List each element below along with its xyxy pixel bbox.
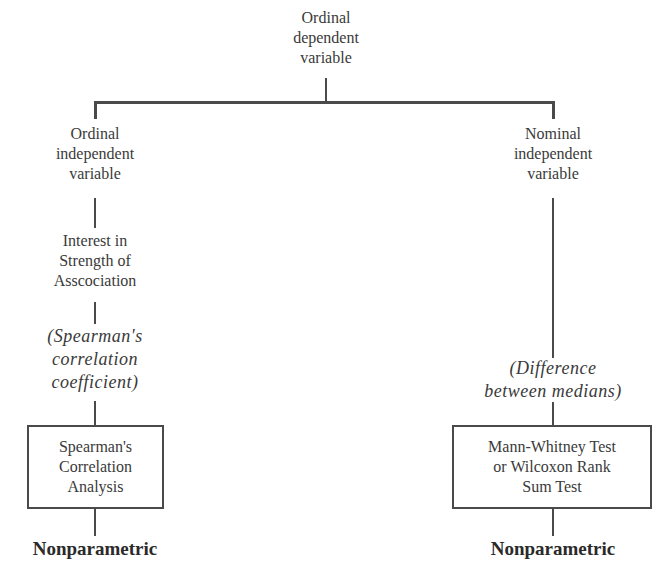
right-test-box-mann-whitney: Mann-Whitney Test or Wilcoxon Rank Sum T… xyxy=(452,425,652,509)
left-test-box-spearman: Spearman's Correlation Analysis xyxy=(27,425,164,509)
right-node-difference-medians: (Difference between medians) xyxy=(463,357,643,403)
root-node-ordinal-dependent: Ordinal dependent variable xyxy=(256,8,396,68)
root-horizontal-connector xyxy=(94,101,555,104)
left-category-nonparametric: Nonparametric xyxy=(0,538,190,560)
left-stem-2 xyxy=(94,302,96,324)
right-category-nonparametric: Nonparametric xyxy=(458,538,648,560)
left-stem-4 xyxy=(94,509,96,536)
left-stem-1 xyxy=(94,198,96,228)
left-test-label: Spearman's Correlation Analysis xyxy=(59,437,132,497)
left-node-spearman-coefficient: (Spearman's correlation coefficient) xyxy=(15,325,175,394)
right-drop-line xyxy=(552,101,555,119)
right-stem-1 xyxy=(552,198,554,358)
left-drop-line xyxy=(94,101,97,119)
right-node-nominal-independent: Nominal independent variable xyxy=(483,124,623,184)
root-stem-line xyxy=(325,78,327,102)
left-node-interest-strength: Interest in Strength of Asscociation xyxy=(20,231,170,291)
left-stem-3 xyxy=(94,401,96,426)
right-stem-3 xyxy=(552,509,554,536)
right-test-label: Mann-Whitney Test or Wilcoxon Rank Sum T… xyxy=(488,437,616,497)
right-stem-2 xyxy=(552,402,554,426)
left-node-ordinal-independent: Ordinal independent variable xyxy=(25,124,165,184)
